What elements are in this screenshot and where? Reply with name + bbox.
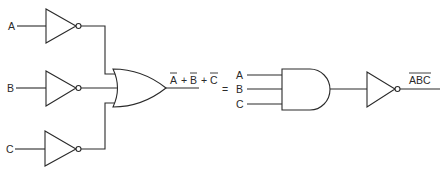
svg-text:B: B [190, 74, 197, 86]
inversion-bubble-icon [76, 86, 81, 91]
svg-text:C: C [210, 74, 218, 86]
inversion-bubble-icon [76, 147, 81, 152]
svg-text:+: + [181, 74, 187, 86]
wire-a-to-or [81, 26, 117, 74]
and-input-label-a: A [236, 69, 243, 81]
svg-text:+: + [201, 74, 207, 86]
svg-text:A: A [170, 74, 177, 86]
and-input-label-c: C [236, 98, 244, 110]
and-gate [282, 69, 330, 110]
input-label-b: B [7, 82, 14, 94]
equals-sign: = [222, 83, 228, 95]
not-gate-a [46, 9, 81, 43]
or-output-expression: A + B + C [170, 73, 218, 86]
input-label-a: A [8, 20, 15, 32]
svg-text:ABC: ABC [409, 74, 431, 86]
not-gate-b [46, 71, 81, 106]
not-gate-output [367, 72, 400, 107]
not-gate-c [45, 131, 81, 166]
wire-c-to-or [81, 103, 117, 149]
input-label-c: C [6, 143, 14, 155]
or-gate [113, 69, 166, 107]
nand-output-expression: ABC [409, 73, 431, 86]
and-input-label-b: B [236, 83, 243, 95]
inversion-bubble-icon [76, 24, 81, 29]
logic-diagram: A B C A + B + C = A B C [0, 0, 447, 176]
inversion-bubble-icon [395, 87, 400, 92]
